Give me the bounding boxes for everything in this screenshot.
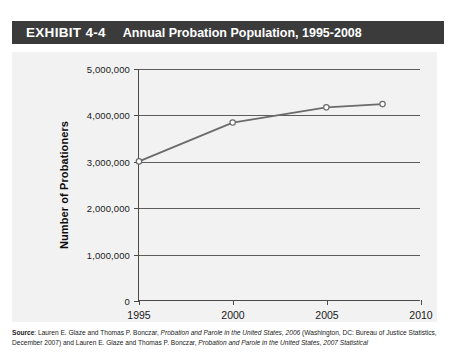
source-note: Source: Lauren E. Glaze and Thomas P. Bo… [12,328,458,347]
x-tick-2000 [233,300,234,305]
y-axis-title: Number of Probationers [56,69,72,301]
exhibit-header: EXHIBIT 4-4 Annual Probation Population,… [12,21,444,44]
x-tick-2010 [421,300,422,305]
x-tick-label-2000: 2000 [221,309,244,321]
source-italic-1: Probation and Parole in the United State… [161,329,301,336]
data-point-2000 [230,120,235,125]
data-point-2008 [380,101,385,106]
series-markers [136,101,385,164]
y-tick-label-1000000: 1,000,000 [87,249,130,260]
chart-data-series [139,69,420,300]
y-tick-label-3000000: 3,000,000 [87,156,130,167]
x-tick-label-2010: 2010 [409,309,432,321]
x-tick-1995 [139,300,140,305]
source-italic-2: Probation and Parole in the United State… [198,339,368,346]
exhibit-number-label: EXHIBIT 4-4 [26,25,106,40]
y-tick-label-5000000: 5,000,000 [87,64,130,75]
source-text-1: : Lauren E. Glaze and Thomas P. Bonczar, [34,329,160,336]
x-tick-2005 [327,300,328,305]
exhibit-title: Annual Probation Population, 1995-2008 [123,26,362,40]
data-point-2005 [324,105,329,110]
data-point-1995 [136,159,141,164]
x-tick-label-1995: 1995 [127,309,150,321]
series-line [139,104,383,161]
source-prefix: Source [12,329,34,336]
y-tick-label-4000000: 4,000,000 [87,110,130,121]
y-tick-label-2000000: 2,000,000 [87,203,130,214]
y-axis-title-text: Number of Probationers [58,121,70,249]
x-tick-label-2005: 2005 [315,309,338,321]
chart-plot-area: 5,000,000 4,000,000 3,000,000 2,000,000 … [138,69,420,301]
y-tick-label-0: 0 [125,296,130,307]
figure-panel: Number of Probationers 5,000,000 4,000,0… [12,52,437,322]
